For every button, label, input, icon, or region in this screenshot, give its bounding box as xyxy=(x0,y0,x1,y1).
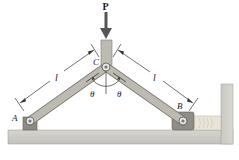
point-label-a: A xyxy=(11,113,18,123)
point-label-b: B xyxy=(177,101,183,111)
angle-label-left: θ xyxy=(90,89,95,99)
link-ac xyxy=(30,67,106,121)
ground xyxy=(8,130,233,144)
force-arrow-p xyxy=(100,12,112,39)
pin-a xyxy=(26,117,34,125)
pin-c xyxy=(102,63,110,71)
mechanism-diagram: P θ θ l l A B C xyxy=(0,0,239,160)
point-label-c: C xyxy=(93,57,100,67)
pin-b xyxy=(179,117,187,125)
length-label-left: l xyxy=(55,72,58,83)
length-label-right: l xyxy=(153,72,156,83)
angle-label-right: θ xyxy=(117,89,122,99)
force-label: P xyxy=(103,1,109,12)
collar-c xyxy=(101,40,112,65)
slider-guide xyxy=(193,116,221,130)
wall xyxy=(221,84,233,144)
